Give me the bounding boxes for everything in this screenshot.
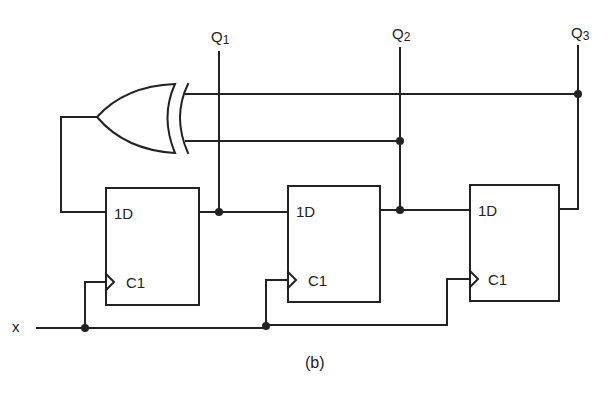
xor-gate <box>97 84 188 153</box>
junction-q2-xor <box>396 137 404 145</box>
wire-clock-x <box>37 279 470 328</box>
ff3-d-label: 1D <box>478 202 497 219</box>
junction-q2-ff <box>396 206 404 214</box>
wire-clock-ff1 <box>85 282 106 328</box>
junction-q3-xor <box>574 90 582 98</box>
ff2-d-label: 1D <box>296 203 315 220</box>
label-x-input: x <box>12 318 20 335</box>
xor-gate-body <box>97 84 175 153</box>
wire-q3-output <box>559 46 578 209</box>
label-q3: Q3 <box>571 24 590 43</box>
circuit-diagram: Q1 Q2 Q3 1D C1 1D C1 1D C1 x (b) <box>0 0 609 396</box>
junction-q1 <box>215 208 223 216</box>
ff1-clk-label: C1 <box>126 274 145 291</box>
ff3-clk-label: C1 <box>488 271 507 288</box>
label-q2: Q2 <box>392 25 411 44</box>
ff1-d-label: 1D <box>114 205 133 222</box>
ff2-clk-label: C1 <box>308 272 327 289</box>
wire-feedback <box>61 117 106 212</box>
junction-clock-2 <box>262 322 270 330</box>
label-q1: Q1 <box>211 28 230 47</box>
figure-caption: (b) <box>305 354 325 371</box>
wire-clock-ff2 <box>266 280 288 327</box>
junction-clock-1 <box>81 324 89 332</box>
